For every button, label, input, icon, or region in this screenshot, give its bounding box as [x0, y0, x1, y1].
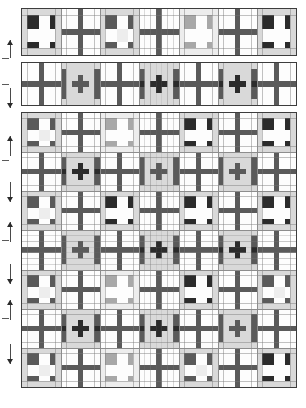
quilt-block-cross-plain — [218, 113, 257, 152]
dimension-arrow-head-icon — [7, 279, 13, 284]
quilt-block-cross-plain — [22, 152, 61, 191]
dimension-arrow-head-icon — [7, 136, 13, 141]
block-seam-vertical — [139, 113, 140, 387]
dim-marker-1 — [6, 40, 15, 58]
quilt-block-cross-plain — [139, 191, 178, 230]
block-seam-vertical — [61, 113, 62, 387]
main-quilt-body-panel — [21, 112, 297, 388]
dim-marker-8 — [6, 344, 15, 364]
block-seam-horizontal — [22, 152, 296, 153]
quilt-block-cross-plain — [61, 9, 100, 55]
quilt-block-ninepatch-dark — [257, 191, 296, 230]
dim-tick-2 — [2, 84, 9, 85]
quilt-block-ninepatch-pale — [100, 270, 139, 309]
block-seam-vertical — [100, 113, 101, 387]
dimension-arrow-head-icon — [7, 359, 13, 364]
quilt-block-cross-plain — [257, 309, 296, 348]
quilt-block-cross-plain — [22, 230, 61, 269]
block-seam-vertical — [139, 63, 140, 105]
quilt-block-cross-plain — [218, 348, 257, 387]
block-seam-vertical — [61, 9, 62, 55]
quilt-block-cross-medium — [61, 230, 100, 269]
quilt-block-ninepatch-pale — [100, 113, 139, 152]
dimension-arrow-rail — [0, 0, 20, 408]
quilt-block-cross-plain — [61, 348, 100, 387]
dim-marker-7 — [6, 300, 15, 320]
block-seam-vertical — [139, 9, 140, 55]
quilt-block-cross-plain — [22, 309, 61, 348]
top-border-strip-panel — [21, 8, 297, 56]
dimension-arrow-head-icon — [7, 300, 13, 305]
quilt-block-ninepatch-medium — [22, 270, 61, 309]
block-seam-vertical — [218, 113, 219, 387]
quilt-block-cross-plain — [139, 9, 178, 55]
second-border-strip-panel — [21, 62, 297, 106]
dim-tick-4 — [2, 240, 9, 241]
quilt-diagram-root — [0, 0, 306, 408]
quilt-block-cross-plain — [61, 270, 100, 309]
quilt-block-cross-plain — [139, 348, 178, 387]
quilt-block-cross-dark — [139, 309, 178, 348]
block-seam-vertical — [61, 63, 62, 105]
quilt-block-ninepatch-dark — [179, 270, 218, 309]
main-quilt-body-inner — [22, 113, 296, 387]
quilt-block-cross-plain — [61, 113, 100, 152]
second-border-strip-inner — [22, 63, 296, 105]
quilt-block-ninepatch-medium — [257, 270, 296, 309]
quilt-block-cross-plain — [179, 230, 218, 269]
dim-marker-4 — [6, 182, 15, 202]
block-seam-horizontal — [22, 309, 296, 310]
quilt-block-cross-plain — [179, 152, 218, 191]
quilt-block-cross-plain — [257, 152, 296, 191]
block-seam-vertical — [100, 9, 101, 55]
block-seam-vertical — [257, 63, 258, 105]
quilt-block-ninepatch-pale — [100, 348, 139, 387]
quilt-block-cross-plain — [139, 113, 178, 152]
quilt-block-cross-plain — [257, 63, 296, 105]
quilt-block-cross-plain — [179, 309, 218, 348]
quilt-block-cross-plain — [139, 270, 178, 309]
quilt-block-ninepatch-dark — [257, 348, 296, 387]
quilt-block-ninepatch-dark — [179, 113, 218, 152]
dim-marker-6 — [6, 264, 15, 284]
quilt-block-ninepatch-pale — [179, 9, 218, 55]
quilt-block-cross-plain — [22, 63, 61, 105]
block-seam-vertical — [179, 9, 180, 55]
quilt-block-cross-medium — [139, 152, 178, 191]
quilt-block-cross-plain — [100, 309, 139, 348]
quilt-block-cross-plain — [218, 270, 257, 309]
quilt-block-cross-dark — [218, 63, 257, 105]
quilt-block-cross-dark — [139, 230, 178, 269]
block-seam-vertical — [257, 113, 258, 387]
quilt-block-ninepatch-dark — [22, 9, 61, 55]
dim-tick-5 — [2, 318, 9, 319]
quilt-block-ninepatch-medium — [22, 113, 61, 152]
quilt-block-ninepatch-dark — [100, 191, 139, 230]
dimension-arrow-head-icon — [7, 222, 13, 227]
quilt-block-cross-dark — [139, 63, 178, 105]
block-seam-horizontal — [22, 348, 296, 349]
block-seam-vertical — [257, 9, 258, 55]
quilt-block-ninepatch-medium — [22, 348, 61, 387]
quilt-block-cross-plain — [257, 230, 296, 269]
quilt-block-cross-dark — [61, 152, 100, 191]
dim-marker-5 — [6, 222, 15, 242]
block-seam-horizontal — [22, 270, 296, 271]
block-seam-vertical — [218, 63, 219, 105]
quilt-block-cross-plain — [100, 152, 139, 191]
quilt-block-ninepatch-dark — [179, 191, 218, 230]
quilt-block-ninepatch-medium — [22, 191, 61, 230]
dimension-arrow-head-icon — [7, 40, 13, 45]
quilt-block-cross-plain — [218, 191, 257, 230]
quilt-block-cross-dark — [218, 230, 257, 269]
quilt-block-cross-plain — [218, 9, 257, 55]
top-border-strip-inner — [22, 9, 296, 55]
dim-marker-2 — [6, 88, 15, 108]
dimension-arrow-head-icon — [7, 103, 13, 108]
quilt-block-ninepatch-medium — [100, 9, 139, 55]
dimension-arrow-head-icon — [7, 197, 13, 202]
quilt-block-cross-medium — [218, 309, 257, 348]
dim-tick-3 — [2, 160, 9, 161]
quilt-block-ninepatch-dark — [257, 9, 296, 55]
block-seam-horizontal — [22, 230, 296, 231]
